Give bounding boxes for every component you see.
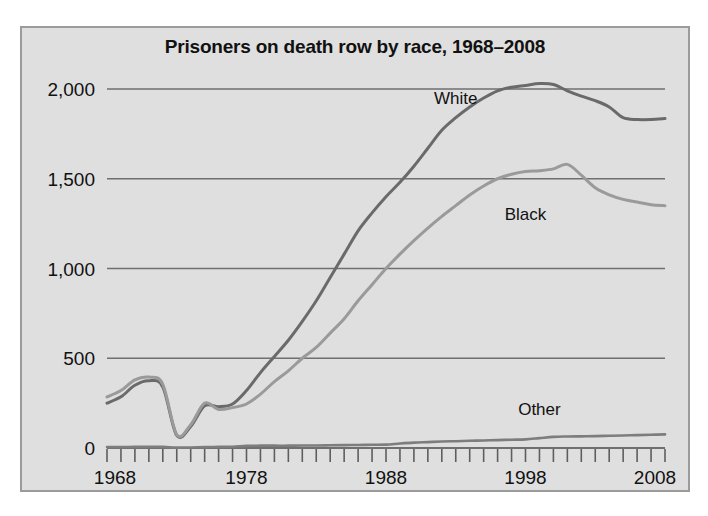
series-line-black xyxy=(107,164,665,436)
y-tick-label-2000: 2,000 xyxy=(47,79,95,100)
series-lines-group xyxy=(107,84,665,448)
x-tick-label-2008: 2008 xyxy=(634,467,676,488)
x-tick-labels-group: 19681978198819982008 xyxy=(94,467,676,488)
series-label-other: Other xyxy=(518,400,561,419)
series-annotations-group: WhiteBlackOther xyxy=(434,89,561,419)
y-tick-label-0: 0 xyxy=(84,438,95,459)
x-tick-label-1978: 1978 xyxy=(225,467,267,488)
x-tick-label-1998: 1998 xyxy=(504,467,546,488)
series-line-other xyxy=(107,434,665,447)
series-label-white: White xyxy=(434,89,477,108)
y-tick-labels-group: 2,0001,5001,0005000 xyxy=(47,79,95,459)
x-tick-label-1988: 1988 xyxy=(365,467,407,488)
x-tick-label-1968: 1968 xyxy=(94,467,136,488)
y-tick-label-500: 500 xyxy=(63,348,95,369)
series-line-white xyxy=(107,84,665,438)
chart-figure: Prisoners on death row by race, 1968–200… xyxy=(0,0,708,516)
y-tick-label-1500: 1,500 xyxy=(47,169,95,190)
y-tick-label-1000: 1,000 xyxy=(47,259,95,280)
chart-plot-svg: 2,0001,5001,0005000 19681978198819982008… xyxy=(0,0,708,516)
series-label-black: Black xyxy=(505,205,547,224)
x-axis-ticks-group xyxy=(107,449,665,462)
